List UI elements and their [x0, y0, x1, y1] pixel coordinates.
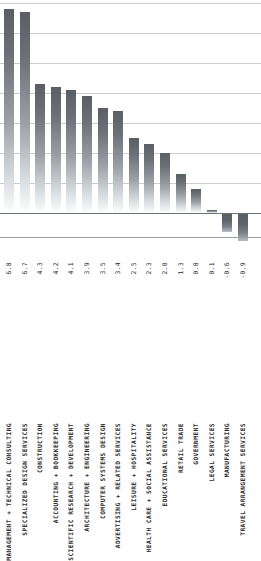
bar[interactable]: [176, 174, 186, 213]
gridline: [0, 33, 261, 34]
bar-value-label: 3.4: [115, 262, 121, 274]
bar[interactable]: [191, 189, 201, 213]
label-column: 3.4ADVERTISING + RELATED SERVICES: [110, 240, 126, 429]
bar-value-label: 2.5: [131, 262, 137, 274]
bar[interactable]: [4, 9, 14, 213]
category-label: HEALTH CARE + SOCIAL ASSISTANCE: [146, 423, 152, 552]
category-label: ARCHITECTURE + ENGINEERING: [84, 423, 90, 532]
gridline: [0, 63, 261, 64]
label-column: 4.3CONSTRUCTION: [32, 240, 48, 429]
bar-value-label: 1.3: [177, 262, 183, 274]
gridline: [0, 3, 261, 4]
bar-value-label: -0.9: [240, 262, 246, 279]
bar[interactable]: [66, 90, 76, 213]
category-label: SPECIALIZED DESIGN SERVICES: [21, 423, 27, 536]
label-column: -0.9TRAVEL ARRANGEMENT SERVICES: [235, 240, 251, 429]
bar-value-label: 2.3: [146, 262, 152, 274]
bar-value-label: -0.6: [224, 262, 230, 279]
category-label: MANUFACTURING: [224, 423, 230, 477]
label-column: 0.1LEGAL SERVICES: [204, 240, 220, 429]
category-label: EDUCATIONAL SERVICES: [162, 423, 168, 507]
bar[interactable]: [98, 108, 108, 213]
label-column: 4.1SCIENTIFIC RESEARCH + DEVELOPMENT: [63, 240, 79, 429]
label-column: 1.3RETAIL TRADE: [173, 240, 189, 429]
bar-value-label: 6.8: [6, 262, 12, 274]
bar[interactable]: [51, 87, 61, 213]
bar[interactable]: [20, 12, 30, 213]
bar-value-label: 3.9: [84, 262, 90, 274]
category-label: GOVERNMENT: [193, 423, 199, 465]
bar-value-label: 4.2: [53, 262, 59, 274]
label-column: -0.6MANUFACTURING: [219, 240, 235, 429]
label-column: 6.7SPECIALIZED DESIGN SERVICES: [17, 240, 33, 429]
bar[interactable]: [35, 84, 45, 213]
category-label: LEGAL SERVICES: [209, 423, 215, 481]
bar-value-label: 6.7: [21, 262, 27, 274]
bar-value-label: 0.8: [193, 262, 199, 274]
label-column: 3.5COMPUTER SYSTEMS DESIGN: [95, 240, 111, 429]
category-label: SCIENTIFIC RESEARCH + DEVELOPMENT: [68, 423, 74, 561]
label-column: 0.8GOVERNMENT: [188, 240, 204, 429]
plot-area: [0, 0, 261, 240]
bar-value-label: 4.3: [37, 262, 43, 274]
category-label: LEISURE + HOSPITALITY: [131, 423, 137, 511]
category-label: COMPUTER SYSTEMS DESIGN: [99, 423, 105, 519]
bar-value-label: 4.1: [68, 262, 74, 274]
label-column: 2.0EDUCATIONAL SERVICES: [157, 240, 173, 429]
category-label: CONSTRUCTION: [37, 423, 43, 473]
label-column: 2.5LEISURE + HOSPITALITY: [126, 240, 142, 429]
bar[interactable]: [129, 138, 139, 213]
bar-value-label: 3.5: [99, 262, 105, 274]
category-label: MANAGEMENT + TECHNICAL CONSULTING: [6, 423, 12, 561]
bar[interactable]: [222, 214, 232, 232]
category-label: ADVERTISING + RELATED SERVICES: [115, 423, 121, 548]
bar-value-label: 2.0: [162, 262, 168, 274]
category-label: ACCOUNTING + BOOKKEEPING: [53, 423, 59, 523]
label-column: 6.8MANAGEMENT + TECHNICAL CONSULTING: [1, 240, 17, 429]
bar[interactable]: [82, 96, 92, 213]
bottom-rule: [0, 237, 261, 238]
bar[interactable]: [160, 153, 170, 213]
label-column: 3.9ARCHITECTURE + ENGINEERING: [79, 240, 95, 429]
labels-area: 6.8MANAGEMENT + TECHNICAL CONSULTING6.7S…: [0, 240, 261, 429]
bar[interactable]: [113, 111, 123, 213]
bar-value-label: 0.1: [209, 262, 215, 274]
zero-axis-line: [0, 213, 261, 214]
category-label: TRAVEL ARRANGEMENT SERVICES: [240, 423, 246, 536]
label-column: 2.3HEALTH CARE + SOCIAL ASSISTANCE: [141, 240, 157, 429]
bar[interactable]: [144, 144, 154, 213]
category-label: RETAIL TRADE: [177, 423, 183, 473]
label-column: 4.2ACCOUNTING + BOOKKEEPING: [48, 240, 64, 429]
